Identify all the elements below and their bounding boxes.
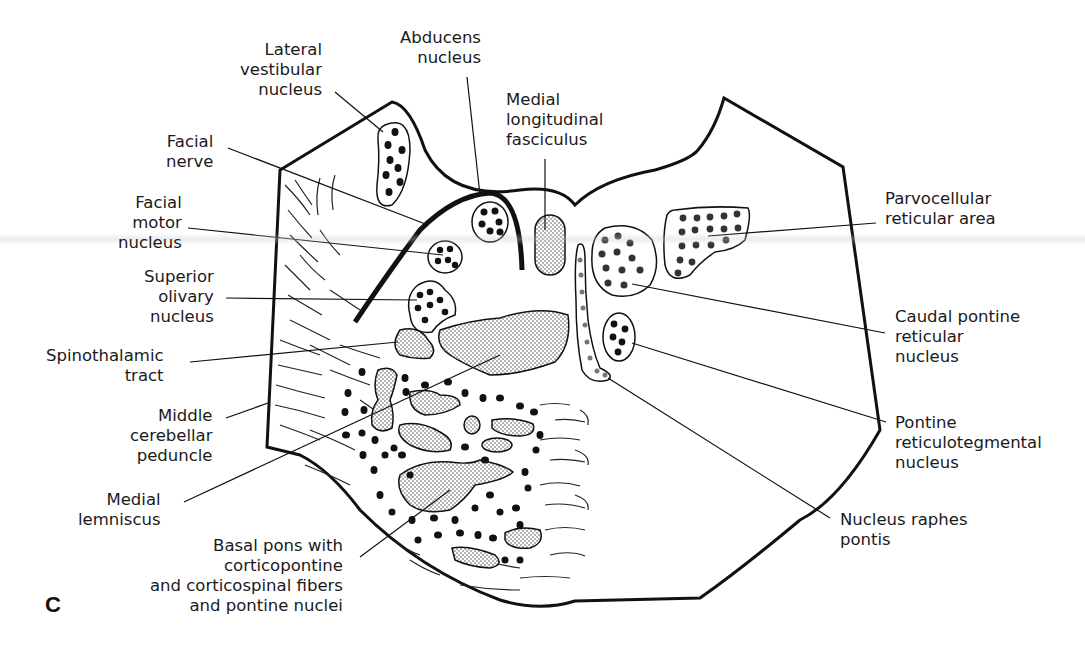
label-line: pontis: [840, 530, 967, 550]
label-line: tract: [46, 366, 164, 386]
medial-longitudinal-fasciculus-shape: [535, 215, 565, 275]
label-line: reticular: [895, 327, 1020, 347]
label-facial-motor-nucleus: Facial motor nucleus: [118, 193, 182, 253]
label-line: Facial: [166, 132, 213, 152]
pontine-reticulotegmental-nucleus-shape: [603, 313, 635, 361]
label-line: fasciculus: [506, 130, 603, 150]
label-line: vestibular: [240, 60, 322, 80]
parvocellular-reticular-area-shape: [664, 207, 750, 278]
cerebellar-peduncle-fibers: [275, 175, 388, 485]
label-abducens-nucleus: Abducens nucleus: [400, 28, 481, 68]
panel-letter: C: [45, 592, 61, 618]
label-medial-longitudinal-fasciculus: Medial longitudinal fasciculus: [506, 90, 603, 150]
caudal-pontine-reticular-nucleus-shape: [592, 226, 657, 297]
label-line: Lateral: [240, 40, 322, 60]
label-line: reticulotegmental: [895, 433, 1042, 453]
label-line: nucleus: [895, 453, 1042, 473]
label-line: Medial: [78, 490, 161, 510]
label-line: nucleus: [144, 307, 214, 327]
label-superior-olivary-nucleus: Superior olivary nucleus: [144, 267, 214, 327]
spinothalamic-tract-shape: [395, 329, 434, 359]
medial-lemniscus-shape: [439, 311, 569, 375]
label-line: nucleus: [400, 48, 481, 68]
label-line: Middle: [130, 406, 212, 426]
facial-motor-nucleus-shape: [428, 241, 462, 273]
pons-outline: [267, 98, 880, 606]
label-line: Facial: [118, 193, 182, 213]
label-line: Pontine: [895, 413, 1042, 433]
label-line: cerebellar: [130, 426, 212, 446]
basal-pons-stippled-islands: [372, 368, 542, 568]
label-line: lemniscus: [78, 510, 161, 530]
lateral-vestibular-nucleus-shape: [377, 123, 410, 206]
label-line: Basal pons with: [150, 536, 343, 556]
label-line: motor: [118, 213, 182, 233]
label-pontine-reticulotegmental-nucleus: Pontine reticulotegmental nucleus: [895, 413, 1042, 473]
label-line: Parvocellular: [885, 189, 996, 209]
abducens-nucleus-shape: [472, 202, 508, 242]
label-line: longitudinal: [506, 110, 603, 130]
label-line: peduncle: [130, 446, 212, 466]
label-basal-pons: Basal pons with corticopontine and corti…: [150, 536, 343, 616]
label-line: nucleus: [240, 80, 322, 100]
label-line: Abducens: [400, 28, 481, 48]
label-line: Superior: [144, 267, 214, 287]
label-line: Nucleus raphes: [840, 510, 967, 530]
superior-olivary-nucleus-shape: [409, 281, 456, 332]
label-line: Caudal pontine: [895, 307, 1020, 327]
label-line: nerve: [166, 152, 213, 172]
label-lateral-vestibular-nucleus: Lateral vestibular nucleus: [240, 40, 322, 100]
label-caudal-pontine-reticular-nucleus: Caudal pontine reticular nucleus: [895, 307, 1020, 367]
label-parvocellular-reticular-area: Parvocellular reticular area: [885, 189, 996, 229]
label-line: Spinothalamic: [46, 346, 164, 366]
label-line: corticopontine: [150, 556, 343, 576]
label-line: olivary: [144, 287, 214, 307]
label-nucleus-raphes-pontis: Nucleus raphes pontis: [840, 510, 967, 550]
label-facial-nerve: Facial nerve: [166, 132, 213, 172]
label-line: and pontine nuclei: [150, 596, 343, 616]
label-line: nucleus: [895, 347, 1020, 367]
label-line: nucleus: [118, 233, 182, 253]
label-spinothalamic-tract: Spinothalamic tract: [46, 346, 164, 386]
label-line: and corticospinal fibers: [150, 576, 343, 596]
label-medial-lemniscus: Medial lemniscus: [78, 490, 161, 530]
label-line: Medial: [506, 90, 603, 110]
label-line: reticular area: [885, 209, 996, 229]
label-middle-cerebellar-peduncle: Middle cerebellar peduncle: [130, 406, 212, 466]
